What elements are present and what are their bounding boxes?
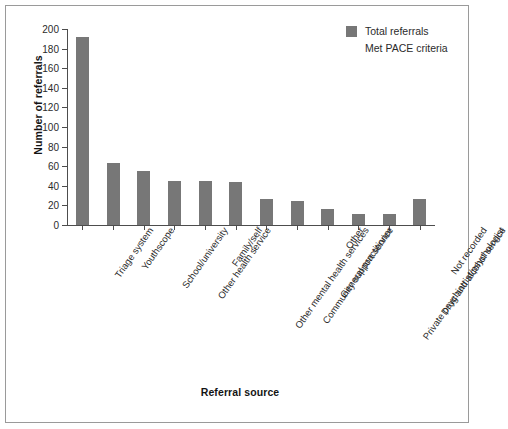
x-tick-labels: Triage systemYouthscopeSchool/university… — [67, 225, 467, 385]
bar — [229, 182, 242, 225]
y-tick — [62, 205, 67, 206]
bar — [199, 181, 212, 225]
bar — [260, 199, 273, 225]
y-tick-label: 140 — [42, 82, 59, 93]
y-tick-label: 160 — [42, 63, 59, 74]
y-tick-label: 40 — [48, 180, 59, 191]
bar — [383, 214, 396, 225]
y-tick-label: 0 — [53, 220, 59, 231]
y-tick — [62, 186, 67, 187]
bar — [76, 37, 89, 225]
bar — [107, 163, 120, 225]
y-tick-label: 100 — [42, 122, 59, 133]
y-tick-label: 120 — [42, 102, 59, 113]
bar — [413, 199, 426, 225]
y-tick — [62, 127, 67, 128]
y-tick — [62, 49, 67, 50]
plot-area: 020406080100120140160180200 — [67, 29, 435, 225]
y-tick — [62, 29, 67, 30]
bar — [321, 209, 334, 225]
y-tick — [62, 166, 67, 167]
y-tick-label: 200 — [42, 24, 59, 35]
y-tick — [62, 88, 67, 89]
y-tick-label: 80 — [48, 141, 59, 152]
y-axis-line — [67, 29, 68, 225]
y-tick — [62, 68, 67, 69]
bar — [168, 181, 181, 225]
x-tick-label: School/university — [179, 225, 229, 290]
y-tick-label: 60 — [48, 161, 59, 172]
y-tick-label: 180 — [42, 43, 59, 54]
bar — [291, 201, 304, 226]
bar — [352, 214, 365, 225]
bar — [137, 171, 150, 225]
x-axis-title: Referral source — [40, 386, 440, 398]
y-tick — [62, 107, 67, 108]
y-tick-label: 20 — [48, 200, 59, 211]
y-tick — [62, 147, 67, 148]
